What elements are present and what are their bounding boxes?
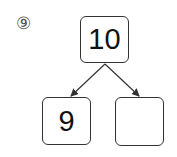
right-arrow	[105, 64, 139, 96]
top-number-box: 10	[80, 16, 129, 63]
bottom-left-number-box: 9	[42, 97, 91, 145]
bottom-right-answer-box[interactable]	[115, 97, 164, 146]
left-arrow	[71, 64, 105, 96]
